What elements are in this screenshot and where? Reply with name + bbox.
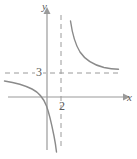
- y-axis-label: y: [42, 1, 47, 12]
- x-tick-label-2: 2: [58, 100, 66, 112]
- y-tick-label-3: 3: [35, 66, 43, 78]
- x-axis-label: x: [127, 92, 132, 103]
- graph-canvas: [0, 0, 137, 159]
- hyperbola-graph-figure: y x 3 2: [0, 0, 137, 159]
- curve-left-branch: [5, 81, 57, 152]
- curve-right-branch: [71, 21, 119, 69]
